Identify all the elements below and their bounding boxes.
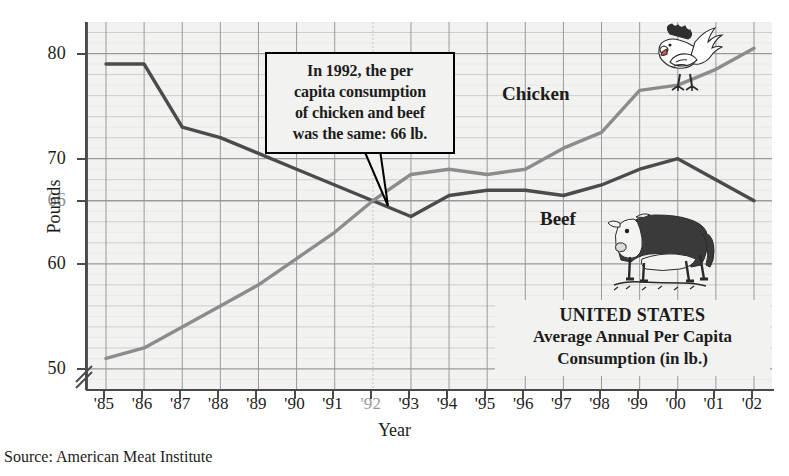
callout-line-2: capita consumption — [275, 81, 445, 102]
x-tick-mark — [141, 391, 143, 399]
x-tick-mark — [217, 391, 219, 399]
y-axis-line — [85, 22, 87, 390]
chart-title-box: UNITED STATES Average Annual Per Capita … — [495, 300, 770, 376]
series-label-chicken: Chicken — [502, 83, 570, 105]
y-tick-label-80: 80 — [20, 44, 66, 62]
x-tick-mark — [484, 391, 486, 399]
series-label-beef: Beef — [540, 208, 576, 230]
x-axis-title: Year — [0, 420, 789, 441]
x-tick-mark — [751, 391, 753, 399]
x-tick-mark — [103, 391, 105, 399]
x-tick-mark — [446, 391, 448, 399]
y-tick-mark — [77, 263, 86, 265]
callout-line-4: was the same: 66 lb. — [275, 123, 445, 144]
x-tick-mark — [522, 391, 524, 399]
callout-line-1: In 1992, the per — [275, 60, 445, 81]
x-tick-mark — [675, 391, 677, 399]
x-axis-line — [86, 389, 774, 391]
x-tick-mark — [332, 391, 334, 399]
x-tick-mark — [599, 391, 601, 399]
y-axis-title: Pounds — [44, 147, 65, 267]
callout-line-3: of chicken and beef — [275, 102, 445, 123]
y-tick-mark — [77, 368, 86, 370]
x-tick-mark — [370, 391, 372, 399]
y-axis-break-icon — [72, 352, 104, 390]
callout-1992: In 1992, the per capita consumption of c… — [265, 52, 455, 154]
x-tick-mark — [294, 391, 296, 399]
y-tick-label-50: 50 — [20, 359, 66, 377]
x-tick-mark — [713, 391, 715, 399]
y-tick-mark — [77, 158, 86, 160]
title-line-units: Consumption (in lb.) — [495, 348, 770, 370]
rooster-icon — [640, 20, 724, 98]
x-tick-mark — [637, 391, 639, 399]
title-line-country: UNITED STATES — [495, 304, 770, 326]
source-note: Source: American Meat Institute — [4, 448, 212, 466]
title-line-subtitle: Average Annual Per Capita — [495, 326, 770, 348]
x-tick-mark — [179, 391, 181, 399]
y-tick-mark — [77, 200, 86, 202]
bull-icon — [600, 205, 718, 293]
x-tick-mark — [408, 391, 410, 399]
x-tick-mark — [560, 391, 562, 399]
chart-root: 5060667080 Pounds '85'86'87'88'89'90'91'… — [0, 0, 789, 476]
x-tick-mark — [255, 391, 257, 399]
y-tick-mark — [77, 53, 86, 55]
